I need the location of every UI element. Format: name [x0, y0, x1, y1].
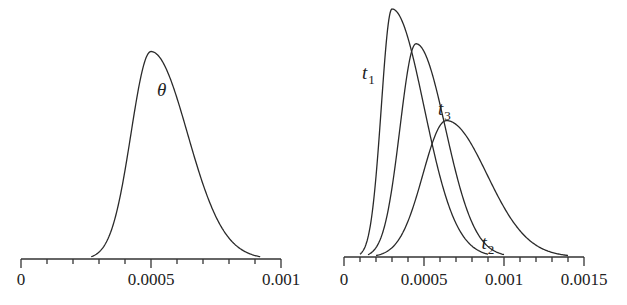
- x-tick-label: 0.001: [485, 270, 523, 289]
- curve-t2: [376, 121, 568, 256]
- left-plot: 00.00050.001θ: [17, 52, 300, 290]
- x-tick-label: 0.0005: [401, 270, 448, 289]
- curve-t3: [368, 44, 504, 255]
- x-tick-label: 0: [17, 270, 26, 289]
- curve-t1: [360, 9, 488, 254]
- chart-canvas: 00.00050.001θ 00.00050.0010.0015t1t3t2: [0, 0, 627, 305]
- right-plot: 00.00050.0010.0015t1t3t2: [340, 9, 608, 289]
- curve-θ: [91, 52, 260, 257]
- x-tick-label: 0.001: [262, 270, 300, 289]
- curve-label-θ: θ: [157, 79, 166, 100]
- x-tick-label: 0.0015: [561, 270, 608, 289]
- curve-label-t1: t1: [362, 62, 375, 87]
- x-tick-label: 0: [340, 270, 349, 289]
- curve-label-t3: t3: [438, 98, 451, 123]
- x-tick-label: 0.0005: [128, 270, 175, 289]
